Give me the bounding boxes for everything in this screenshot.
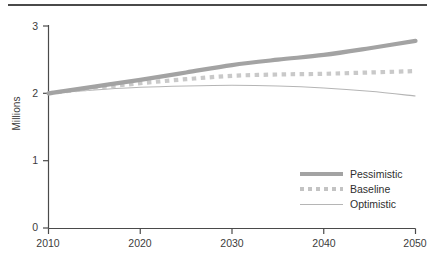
x-tick-label-2010: 2010 [28, 237, 68, 249]
y-tick-label-0: 0 [18, 221, 38, 233]
legend-swatch-optimistic-icon [300, 198, 343, 210]
legend-label-baseline: Baseline [350, 183, 390, 195]
legend-item-optimistic: Optimistic [300, 196, 432, 211]
x-tick-label-2020: 2020 [120, 237, 160, 249]
chart-legend: Pessimistic Baseline Optimistic [300, 166, 432, 211]
y-axis-ticks [43, 26, 49, 228]
legend-item-pessimistic: Pessimistic [300, 166, 432, 181]
y-tick-label-1: 1 [18, 154, 38, 166]
y-tick-label-3: 3 [18, 20, 38, 32]
legend-label-pessimistic: Pessimistic [350, 168, 403, 180]
chart-figure: Millions 3 2 1 0 2010 2020 2030 2040 205… [0, 0, 435, 260]
legend-label-optimistic: Optimistic [350, 198, 396, 210]
legend-swatch-pessimistic-icon [300, 168, 343, 180]
x-tick-label-2040: 2040 [304, 237, 344, 249]
legend-item-baseline: Baseline [300, 181, 432, 196]
x-axis-ticks [49, 229, 416, 235]
legend-swatch-baseline-icon [300, 183, 343, 195]
x-tick-label-2050: 2050 [395, 237, 435, 249]
line-chart-plot [0, 0, 435, 260]
y-tick-label-2: 2 [18, 87, 38, 99]
x-tick-label-2030: 2030 [212, 237, 252, 249]
